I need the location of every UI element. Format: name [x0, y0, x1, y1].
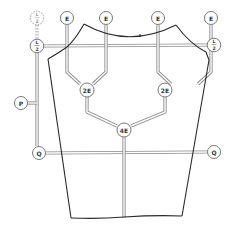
node-label: P — [19, 100, 24, 107]
node-label: 4E — [120, 127, 128, 134]
dashed-connector — [36, 25, 38, 39]
node-4e: 4E — [117, 123, 131, 137]
fraction-numerator: L — [36, 40, 39, 45]
node-label: Q — [211, 149, 216, 156]
node-label: E — [209, 15, 213, 22]
fraction-denominator: 2 — [212, 46, 215, 51]
node-p: P — [15, 97, 28, 110]
fraction-denominator: 2 — [35, 47, 38, 52]
node-label: 2E — [161, 87, 169, 94]
fraction-numerator: L — [213, 39, 216, 44]
node-q-left: Q — [33, 147, 46, 160]
node-e2: E — [100, 12, 113, 25]
garment-outline — [48, 24, 209, 218]
node-label: E — [156, 15, 160, 22]
measurement-rails — [27, 25, 211, 218]
node-half-length-dashed: L 2 — [30, 11, 44, 25]
node-half-length-left: L 2 — [30, 39, 44, 53]
node-label: Q — [36, 150, 41, 157]
node-e1: E — [61, 12, 74, 25]
node-half-length-right: L 2 — [207, 38, 221, 52]
node-label: E — [104, 15, 108, 22]
node-label: 2E — [83, 87, 91, 94]
node-q-right: Q — [208, 146, 221, 159]
node-e4: E — [205, 12, 218, 25]
garment-diagram: E E E E L 2 L 2 L 2 P Q — [0, 0, 235, 233]
node-2e-left: 2E — [80, 83, 94, 97]
fraction-numerator: L — [36, 12, 39, 17]
node-2e-right: 2E — [158, 83, 172, 97]
fraction-denominator: 2 — [35, 19, 38, 24]
node-label: E — [65, 15, 69, 22]
node-e3: E — [152, 12, 165, 25]
